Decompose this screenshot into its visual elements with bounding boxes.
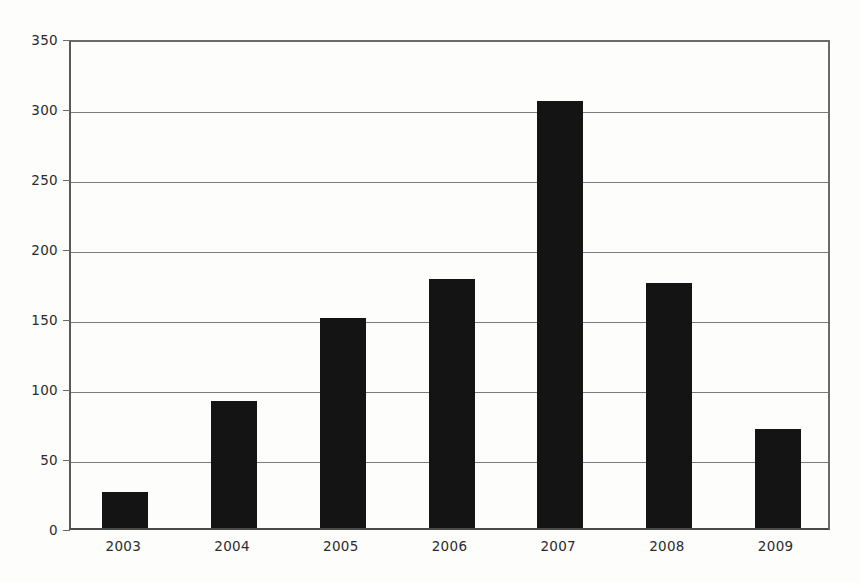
x-axis-tick-label: 2008 bbox=[649, 538, 685, 554]
y-axis-tick-label: 100 bbox=[31, 382, 58, 398]
x-axis-tick-label: 2003 bbox=[106, 538, 142, 554]
y-axis-tick-label: 50 bbox=[40, 452, 58, 468]
y-axis-tick-label: 200 bbox=[31, 242, 58, 258]
x-axis-tick-label: 2007 bbox=[540, 538, 576, 554]
bar bbox=[102, 492, 148, 528]
y-axis-tick-label: 300 bbox=[31, 102, 58, 118]
y-axis-tick-label: 0 bbox=[49, 522, 58, 538]
gridline bbox=[71, 252, 828, 253]
bar bbox=[755, 429, 801, 528]
bar bbox=[537, 101, 583, 528]
y-axis-tick-labels: 050100150200250300350 bbox=[0, 40, 58, 530]
x-axis-tick-label: 2005 bbox=[323, 538, 359, 554]
y-axis-tick-mark bbox=[63, 110, 70, 111]
y-axis-tick-mark bbox=[63, 390, 70, 391]
bar bbox=[429, 279, 475, 528]
bar bbox=[320, 318, 366, 528]
x-axis-tick-label: 2006 bbox=[432, 538, 468, 554]
x-axis-tick-label: 2004 bbox=[214, 538, 250, 554]
y-axis-tick-mark bbox=[63, 180, 70, 181]
y-axis-tick-label: 250 bbox=[31, 172, 58, 188]
y-axis-tick-label: 150 bbox=[31, 312, 58, 328]
gridline bbox=[71, 182, 828, 183]
x-axis-tick-label: 2009 bbox=[758, 538, 794, 554]
bar bbox=[211, 401, 257, 528]
plot-area bbox=[69, 40, 830, 530]
y-axis-tick-mark bbox=[63, 460, 70, 461]
y-axis-tick-label: 350 bbox=[31, 32, 58, 48]
chart-page: 050100150200250300350 200320042005200620… bbox=[0, 0, 860, 583]
y-axis-tick-mark bbox=[63, 40, 70, 41]
x-axis-tick-labels: 2003200420052006200720082009 bbox=[69, 538, 830, 564]
y-axis-tick-mark bbox=[63, 320, 70, 321]
gridline bbox=[71, 112, 828, 113]
y-axis-tick-mark bbox=[63, 530, 70, 531]
bar bbox=[646, 283, 692, 528]
y-axis-tick-mark bbox=[63, 250, 70, 251]
